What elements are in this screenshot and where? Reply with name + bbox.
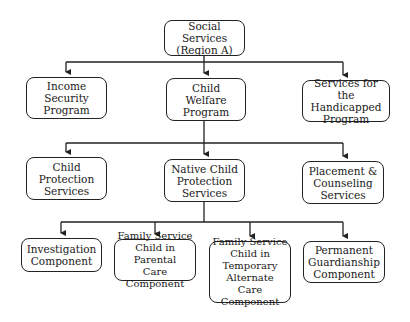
node-label: Services for the Handicapped Program	[305, 77, 387, 125]
node-investigation: Investigation Component	[21, 238, 102, 272]
node-income-security: Income Security Program	[26, 77, 107, 119]
node-family-temporary-care: Family Service Child in Temporary Altern…	[209, 241, 291, 303]
node-label: Family Service Child in Parental Care Co…	[117, 230, 193, 290]
node-label: Family Service Child in Temporary Altern…	[212, 236, 288, 308]
node-native-child-protection: Native Child Protection Services	[164, 159, 245, 202]
node-social-services: Social Services (Region A)	[164, 20, 245, 56]
node-label: Child Protection Services	[39, 161, 94, 197]
node-label: Investigation Component	[27, 243, 97, 267]
node-family-parental-care: Family Service Child in Parental Care Co…	[114, 239, 196, 281]
node-child-protection: Child Protection Services	[26, 157, 107, 200]
node-permanent-guardianship: Permanent Guardianship Component	[303, 241, 385, 283]
node-child-welfare: Child Welfare Program	[166, 78, 246, 121]
node-label: Native Child Protection Services	[171, 163, 238, 199]
node-label: Social Services (Region A)	[167, 20, 242, 56]
node-handicapped-services: Services for the Handicapped Program	[302, 80, 390, 122]
node-label: Placement & Counseling Services	[309, 165, 378, 201]
node-label: Child Welfare Program	[183, 82, 229, 118]
node-placement-counseling: Placement & Counseling Services	[302, 161, 384, 204]
node-label: Income Security Program	[43, 80, 89, 116]
node-label: Permanent Guardianship Component	[308, 244, 380, 280]
